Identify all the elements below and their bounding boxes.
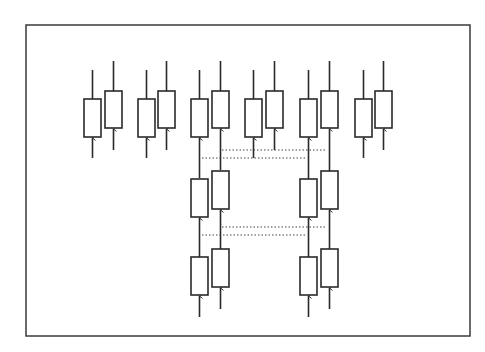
block-rect <box>138 99 155 137</box>
block-g5-left <box>300 70 317 180</box>
block-g4-left <box>245 70 262 158</box>
block-group <box>84 61 392 317</box>
block-g1-right <box>105 61 122 150</box>
block-g3-left <box>191 70 208 178</box>
block-rect <box>321 249 338 287</box>
block-rect <box>300 179 317 217</box>
block-g2-left <box>138 70 155 158</box>
block-rect <box>212 91 229 128</box>
block-g6-left <box>355 70 372 158</box>
block-g5-right <box>321 61 338 171</box>
block-rect <box>321 171 338 209</box>
block-rect <box>300 257 317 295</box>
block-rect <box>84 99 101 137</box>
block-rect <box>105 91 122 128</box>
block-rect <box>191 99 208 137</box>
block-g2-right <box>158 61 175 150</box>
block-b1-left <box>191 257 208 317</box>
diagram-canvas <box>0 0 485 352</box>
block-g4-right <box>266 61 283 150</box>
block-g3-right <box>212 61 229 170</box>
block-m2-left <box>300 179 317 257</box>
block-rect <box>375 91 392 128</box>
block-rect <box>300 99 317 137</box>
block-rect <box>245 99 262 137</box>
block-rect <box>191 179 208 217</box>
block-rect <box>158 91 175 128</box>
block-rect <box>212 249 229 287</box>
block-rect <box>266 91 283 128</box>
block-g6-right <box>375 61 392 150</box>
block-m1-right <box>212 171 229 249</box>
block-b2-right <box>321 249 338 309</box>
block-rect <box>355 99 372 137</box>
block-rect <box>212 171 229 209</box>
block-b2-left <box>300 257 317 317</box>
block-b1-right <box>212 249 229 309</box>
block-g1-left <box>84 70 101 158</box>
block-rect <box>191 257 208 295</box>
block-m1-left <box>191 179 208 257</box>
block-rect <box>321 91 338 128</box>
block-m2-right <box>321 171 338 249</box>
